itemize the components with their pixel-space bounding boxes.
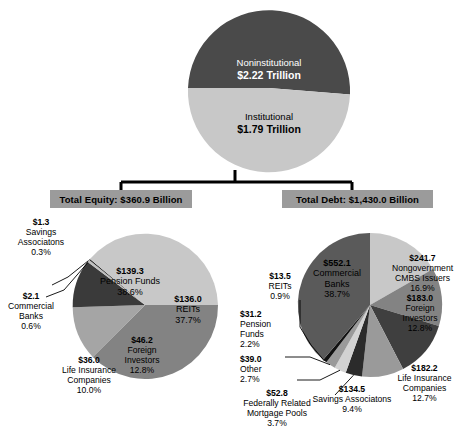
debt-commercial-banks-name: Commercial <box>299 268 375 278</box>
top-label-noninstitutional-amount: $2.22 Trillion <box>206 69 332 82</box>
total-equity-box[interactable]: Total Equity: $360.9 Billion <box>50 190 192 208</box>
debt-label-pension-funds: $31.2 Pension Funds 2.2% <box>240 310 296 350</box>
equity-label-pension-funds: $139.3 Pension Funds 38.6% <box>86 266 174 297</box>
debt-reits-percent: 0.9% <box>256 292 304 302</box>
equity-label-reits: $136.0 REITs 37.7% <box>160 294 216 325</box>
equity-label-savings-associations: $1.3 Savings Associatons 0.3% <box>7 218 75 258</box>
connector-tree <box>121 170 352 190</box>
debt-label-cmbs: $241.7 Nongovernment CMBS Issuers 16.9% <box>378 254 467 294</box>
debt-commercial-banks-percent: 38.7% <box>299 289 375 299</box>
debt-label-foreign-investors: $183.0 Foreign Investors 12.8% <box>388 294 452 334</box>
equity-pension-funds-name: Pension Funds <box>86 276 174 286</box>
equity-reits-amount: $136.0 <box>160 294 216 304</box>
equity-reits-percent: 37.7% <box>160 315 216 325</box>
top-label-institutional-amount: $1.79 Trillion <box>206 123 332 136</box>
equity-savings-associations-percent: 0.3% <box>7 248 75 258</box>
top-pie-label-noninstitutional: Noninstitutional $2.22 Trillion <box>206 57 332 82</box>
debt-federally-related-percent: 3.7% <box>222 419 332 429</box>
equity-commercial-banks-percent: 0.6% <box>0 322 62 332</box>
equity-reits-name: REITs <box>160 304 216 314</box>
debt-commercial-banks-name2: Banks <box>299 279 375 289</box>
equity-life-insurance-percent: 10.0% <box>41 386 137 396</box>
debt-leader-other <box>297 370 340 380</box>
debt-label-commercial-banks: $552.1 Commercial Banks 38.7% <box>299 258 375 299</box>
top-label-noninstitutional-name: Noninstitutional <box>206 57 332 69</box>
debt-pension-funds-percent: 2.2% <box>240 340 296 350</box>
debt-label-federally-related: $52.8 Federally Related Mortgage Pools 3… <box>222 389 332 429</box>
debt-label-other: $39.0 Other 2.7% <box>240 355 296 385</box>
debt-label-reits: $13.5 REITs 0.9% <box>256 272 304 302</box>
debt-foreign-investors-percent: 12.8% <box>388 324 452 334</box>
equity-label-life-insurance: $36.0 Life Insurance Companies 10.0% <box>41 356 137 396</box>
debt-commercial-banks-amount: $552.1 <box>299 258 375 268</box>
top-label-institutional-name: Institutional <box>206 111 332 123</box>
top-pie-label-institutional: Institutional $1.79 Trillion <box>206 111 332 136</box>
top-pie-group <box>188 10 350 172</box>
figure-canvas: Noninstitutional $2.22 Trillion Institut… <box>0 0 467 435</box>
equity-pension-funds-amount: $139.3 <box>86 266 174 276</box>
equity-label-commercial-banks: $2.1 Commercial Banks 0.6% <box>0 292 62 332</box>
debt-other-percent: 2.7% <box>240 375 296 385</box>
total-debt-box[interactable]: Total Debt: $1,430.0 Billion <box>282 190 433 208</box>
